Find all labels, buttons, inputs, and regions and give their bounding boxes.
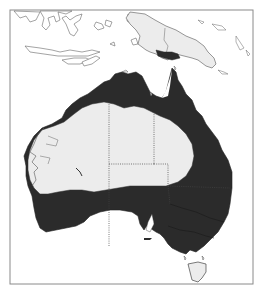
distribution-map [0,0,260,292]
map-svg [0,0,260,292]
